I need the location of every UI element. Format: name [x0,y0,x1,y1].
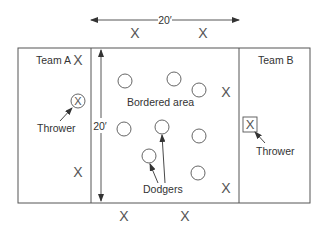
team-b-thrower: X [243,117,265,143]
player-marker: X [198,25,208,41]
player-marker: X [73,52,83,68]
svg-text:X: X [246,117,255,132]
dodger-circle [155,120,169,134]
thrower-a-pointer [60,108,72,121]
dodgers [117,72,206,180]
player-marker: X [221,180,231,196]
team-b-label: Team B [258,54,294,66]
dodger-circle [167,72,181,86]
player-marker: X [73,164,83,180]
player-marker: X [130,25,140,41]
dodgers-label: Dodgers [143,183,183,195]
dodger-circle [118,74,132,88]
width-dimension: 20′ [91,14,239,26]
dodger-circle [142,149,156,163]
height-label: 20′ [93,120,107,132]
width-label: 20′ [158,14,172,26]
thrower-b-pointer [255,132,265,143]
thrower-a-label: Thrower [37,122,76,134]
player-marker: X [180,208,190,224]
dodgers-pointer-1 [150,164,158,183]
dodger-circle [192,83,206,97]
dodgeball-court-diagram: 20′ 20′ Team A Team B Bordered area X X … [0,0,325,236]
player-marker: X [221,84,231,100]
team-a-thrower: X [60,94,85,121]
dodgers-pointer-2 [162,135,165,183]
dodger-circle [191,166,205,180]
bordered-area-label: Bordered area [127,96,194,108]
height-dimension: 20′ [92,50,107,201]
svg-text:X: X [74,95,82,107]
dodger-circle [192,129,206,143]
dodger-circle [117,122,131,136]
team-a-label: Team A [36,54,71,66]
thrower-b-label: Thrower [256,145,295,157]
player-marker: X [119,208,129,224]
